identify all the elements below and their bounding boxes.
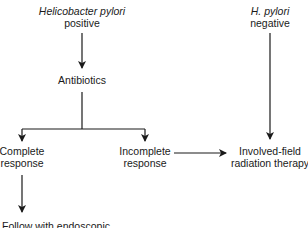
complete-line2: response [0, 157, 52, 169]
radiation-line1: Involved-field [225, 145, 308, 157]
hp-negative-line1: H. pylori [240, 5, 300, 17]
incomplete-line1: Incomplete [113, 145, 177, 157]
hp-positive-line2: positive [22, 17, 142, 29]
node-antibiotics: Antibiotics [42, 74, 122, 86]
node-complete-response: Complete response [0, 145, 52, 169]
radiation-line2: radiation therapy [225, 157, 308, 169]
node-hp-positive: Helicobacter pylori positive [22, 5, 142, 29]
flowchart-edges [0, 0, 308, 228]
complete-line1: Complete [0, 145, 52, 157]
node-radiation-therapy: Involved-field radiation therapy [225, 145, 308, 169]
node-incomplete-response: Incomplete response [113, 145, 177, 169]
node-followup: Follow with endoscopic [2, 220, 110, 228]
incomplete-line2: response [113, 157, 177, 169]
node-hp-negative: H. pylori negative [240, 5, 300, 29]
hp-positive-line1: Helicobacter pylori [22, 5, 142, 17]
hp-negative-line2: negative [240, 17, 300, 29]
